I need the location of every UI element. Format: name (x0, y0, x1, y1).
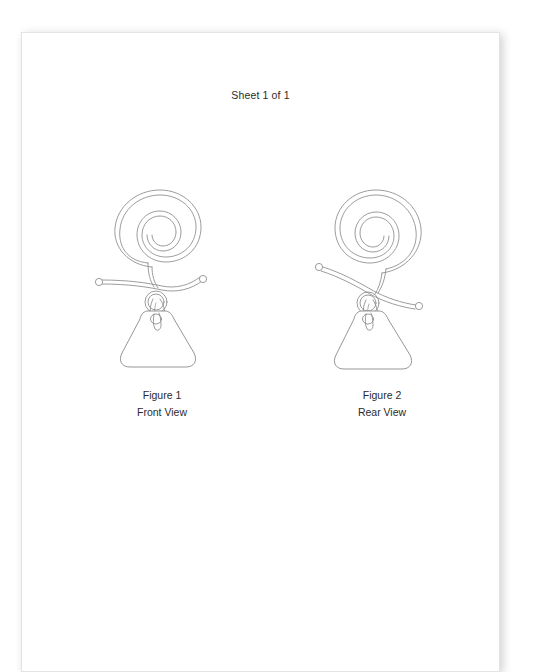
figure-2: Figure 2 Rear View (302, 153, 462, 421)
figure-2-drawing (302, 153, 462, 373)
bar-bead-right (199, 275, 206, 282)
figure-2-view: Rear View (302, 404, 462, 421)
cross-bar-wire (321, 267, 416, 309)
figure-1-caption: Figure 1 Front View (82, 387, 242, 421)
drawing-sheet-content: Sheet 1 of 1 (22, 33, 499, 671)
figure-1-view: Front View (82, 404, 242, 421)
figure-1-number: Figure 1 (82, 387, 242, 404)
figure-2-caption: Figure 2 Rear View (302, 387, 462, 421)
figure-1: Figure 1 Front View (82, 153, 242, 421)
spiral-coil-outer (115, 190, 201, 267)
jump-ring (145, 291, 167, 313)
cross-bar-wire (102, 277, 202, 291)
bar-bead-left (315, 263, 322, 270)
pendant-plate (120, 311, 195, 367)
spiral-coil-outer (335, 190, 421, 273)
drawing-sheet: Sheet 1 of 1 (21, 32, 500, 672)
figure-2-number: Figure 2 (302, 387, 462, 404)
bar-bead-right (415, 302, 422, 309)
bar-bead-left (95, 278, 102, 285)
figure-1-drawing (82, 153, 242, 373)
sheet-header-label: Sheet 1 of 1 (22, 89, 499, 101)
